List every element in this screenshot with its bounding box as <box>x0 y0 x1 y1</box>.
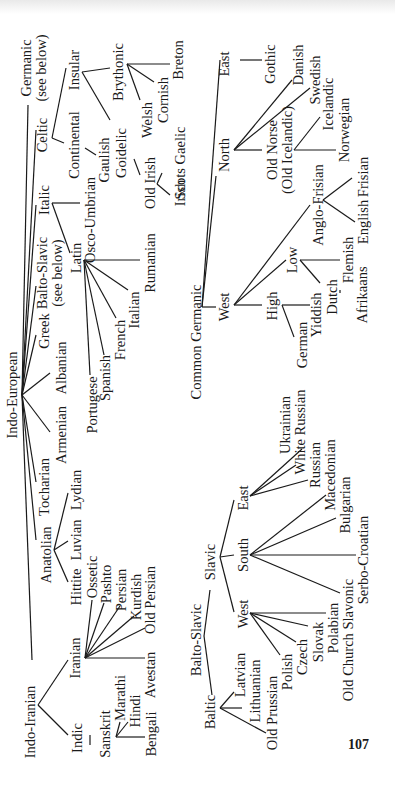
node-dutch: Dutch <box>325 279 340 314</box>
node-sanskrit: Sanskrit <box>98 710 113 758</box>
node-old-norse: Old Norse(Old Icelandic) <box>265 106 295 194</box>
node-cornish: Cornish <box>156 77 171 123</box>
node-spanish: Spanish <box>98 355 113 401</box>
node-hittite: Hittite <box>69 568 84 605</box>
node-low: Low <box>285 247 300 274</box>
node-balto-slavic-ref: Balto-Slavic(see below) <box>35 237 65 310</box>
node-albanian: Albanian <box>54 341 69 394</box>
see-below-note: (see below) <box>33 34 49 101</box>
node-slavic-south: South <box>236 538 251 572</box>
node-persian: Persian <box>114 569 129 612</box>
node-russian: Russian <box>308 442 323 488</box>
node-welsh: Welsh <box>140 102 155 138</box>
node-icelandic: Icelandic <box>321 77 336 130</box>
node-czech: Czech <box>295 639 310 675</box>
node-insular: Insular <box>67 50 82 90</box>
node-high: High <box>265 292 280 321</box>
node-afrikaans: Afrikaans <box>355 266 370 323</box>
old-norse-label: Old Norse <box>264 120 280 180</box>
node-avestan: Avestan <box>143 652 158 698</box>
balto-slavic-ref-label: Balto-Slavic <box>34 237 50 310</box>
node-continental: Continental <box>67 111 82 179</box>
node-germanic-ref: Germanic(see below) <box>19 34 49 101</box>
page-number: 107 <box>348 737 369 753</box>
node-ukrainian: Ukrainian <box>278 396 293 454</box>
node-norwegian: Norwegian <box>337 98 352 162</box>
node-iranian: Iranian <box>68 637 83 678</box>
node-celtic: Celtic <box>35 118 50 153</box>
node-pashto: Pashto <box>99 565 114 604</box>
node-armenian: Armenian <box>54 406 69 464</box>
node-old-persian: Old Persian <box>143 566 158 634</box>
node-italian: Italian <box>127 291 142 328</box>
node-rumanian: Rumanian <box>143 233 158 293</box>
node-north-germanic: North <box>217 138 232 172</box>
node-indic: Indic <box>70 723 85 753</box>
node-swedish: Swedish <box>308 55 323 104</box>
node-old-prussian: Old Prussian <box>265 676 280 751</box>
old-icelandic-label: (Old Icelandic) <box>279 106 295 194</box>
see-below-note: (see below) <box>49 239 65 306</box>
node-slavic-west: West <box>236 600 251 629</box>
node-old-irish: Old Irish <box>143 157 158 209</box>
node-baltic: Baltic <box>203 695 218 730</box>
node-old-church-slavonic: Old Church Slavonic <box>341 579 356 701</box>
node-latvian: Latvian <box>233 653 248 697</box>
node-slavic: Slavic <box>203 544 218 580</box>
node-white-russian: White Russian <box>293 390 308 475</box>
node-hindi: Hindi <box>128 694 143 727</box>
node-yiddish: Yiddish <box>309 292 324 337</box>
node-lydian: Lydian <box>69 470 84 510</box>
node-italic: Italic <box>37 185 52 215</box>
node-brythonic: Brythonic <box>111 43 126 101</box>
node-goidelic: Goidelic <box>114 128 129 178</box>
node-slavic-east: East <box>236 486 251 511</box>
node-macedonian: Macedonian <box>323 439 338 511</box>
node-greek: Greek <box>37 313 52 348</box>
node-marathi: Marathi <box>113 675 128 721</box>
node-indo-european: Indo-European <box>5 352 20 439</box>
node-frisian: Frisian <box>356 157 371 197</box>
node-common-germanic: Common Germanic <box>189 285 204 400</box>
node-tocharian: Tocharian <box>37 458 52 516</box>
node-gaulish: Gaulish <box>97 137 112 182</box>
node-flemish: Flemish <box>341 237 356 284</box>
node-indo-iranian: Indo-Iranian <box>23 686 38 758</box>
node-east-germanic: East <box>217 52 232 77</box>
node-west-germanic: West <box>217 293 232 322</box>
node-osco-umbrian: Osco-Umbrian <box>83 177 98 263</box>
node-bulgarian: Bulgarian <box>338 476 353 533</box>
node-serbo-croatian: Serbo-Croatian <box>356 516 371 605</box>
node-lithuanian: Lithuanian <box>248 660 263 723</box>
germanic-ref-label: Germanic <box>18 39 34 96</box>
node-luvian: Luvian <box>69 519 84 560</box>
node-polish: Polish <box>280 654 295 690</box>
node-english: English <box>356 200 371 244</box>
node-slovak: Slovak <box>311 622 326 662</box>
node-gothic: Gothic <box>263 44 278 83</box>
node-scots-gaelic: Scots Gaelic <box>173 127 188 200</box>
node-anglo-frisian: Anglo-Frisian <box>311 164 326 245</box>
node-breton: Breton <box>171 40 186 79</box>
node-balto-slavic: Balto-Slavic <box>189 604 204 677</box>
node-bengali: Bengali <box>144 711 159 756</box>
node-anatolian: Anatolian <box>39 526 54 583</box>
node-polabian: Polabian <box>326 603 341 654</box>
node-danish: Danish <box>291 44 306 85</box>
